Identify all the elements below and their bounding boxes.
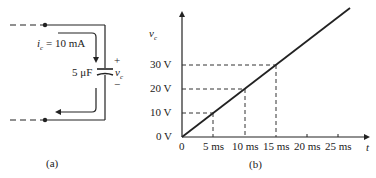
y-tick-20: 20 V [150,83,172,94]
y-tick-0: 0 V [156,131,172,142]
minus-sign: − [114,79,120,90]
caption-a: (a) [46,158,58,169]
x-axis-arrow-icon [364,134,370,140]
voltage-ramp-line [182,8,350,137]
terminal-dot-bottom [43,118,47,122]
x-tick-25: 25 ms [325,141,352,152]
arrow-left-icon [55,109,61,115]
y-tick-10: 10 V [150,107,172,118]
terminal-dot-top [43,23,47,27]
graph-axes [182,16,365,137]
caption-b: (b) [249,159,262,170]
x-tick-0: 0 [179,141,185,152]
current-label: ic = 10 mA [37,38,85,52]
arrow-down-icon [93,57,99,63]
y-axis-label: vc [149,28,157,42]
y-axis-arrow-icon [179,11,185,17]
y-tick-30: 30 V [150,59,172,70]
x-tick-10: 10 ms [232,141,259,152]
x-tick-20: 20 ms [294,141,321,152]
x-tick-15: 15 ms [263,141,290,152]
x-tick-5: 5 ms [203,141,224,152]
capacitance-label: 5 μF [72,67,92,78]
plus-sign: + [114,55,120,66]
x-axis-label: t [366,142,369,153]
